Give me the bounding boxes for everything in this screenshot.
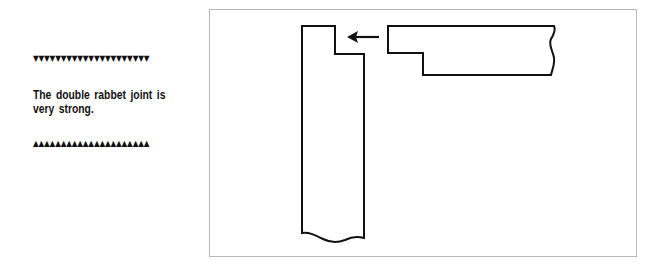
joint-figure <box>209 9 637 257</box>
vertical-board <box>302 26 364 242</box>
caption-text: The double rabbet joint is very strong. <box>33 88 186 116</box>
horizontal-board <box>388 26 555 75</box>
bottom-triangle-rule: ▲▲▲▲▲▲▲▲▲▲▲▲▲▲▲▲▲▲▲▲▲ <box>33 139 178 149</box>
joint-diagram <box>210 10 636 256</box>
top-triangle-rule: ▼▼▼▼▼▼▼▼▼▼▼▼▼▼▼▼▼▼▼▼▼ <box>33 54 178 64</box>
sidebar-note: ▼▼▼▼▼▼▼▼▼▼▼▼▼▼▼▼▼▼▼▼▼ The double rabbet … <box>33 54 189 149</box>
